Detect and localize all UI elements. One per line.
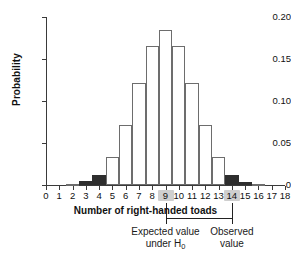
y-tick-label-0.20: 0.20: [253, 11, 291, 22]
bar-15: [239, 182, 252, 185]
y-tick-label-0.10: 0.10: [253, 95, 291, 106]
observed-value-annotation: Observed value: [192, 226, 272, 249]
bar-8: [146, 46, 159, 185]
bar-4: [92, 175, 105, 185]
expected-value-line1: Expected value: [131, 226, 199, 237]
bar-7: [132, 83, 145, 185]
observed-value-leader-line: [232, 218, 233, 224]
bar-16: [252, 184, 265, 186]
bar-13: [212, 157, 225, 185]
bar-9: [159, 30, 172, 185]
bracket-bottom-rule: [166, 218, 232, 219]
bar-5: [106, 157, 119, 185]
y-tick-0.15: [42, 59, 46, 60]
observed-value-line1: Observed: [210, 226, 253, 237]
y-tick-0.10: [42, 101, 46, 102]
y-tick-label-0.05: 0.05: [253, 137, 291, 148]
x-tick-label-18: 18: [277, 190, 291, 201]
bar-3: [79, 181, 92, 185]
y-tick-0.20: [42, 17, 46, 18]
expected-value-leader-line: [166, 218, 167, 224]
bar-10: [172, 46, 185, 185]
y-tick-0.05: [42, 143, 46, 144]
y-axis-title: Probability: [11, 27, 22, 133]
observed-value-line2: value: [220, 238, 244, 249]
null-hypothesis-subscript: 0: [181, 242, 185, 251]
x-axis-title: Number of right-handed toads: [0, 205, 291, 216]
bar-6: [119, 125, 132, 185]
expected-value-line2: under H: [146, 238, 182, 249]
y-axis-line: [46, 17, 47, 186]
probability-distribution-chart: Probability 00.050.100.150.20 0123456789…: [0, 0, 291, 254]
bar-14: [225, 175, 238, 185]
bar-11: [185, 83, 198, 185]
y-tick-label-0.15: 0.15: [253, 53, 291, 64]
bar-2: [66, 184, 79, 186]
bar-12: [199, 125, 212, 185]
